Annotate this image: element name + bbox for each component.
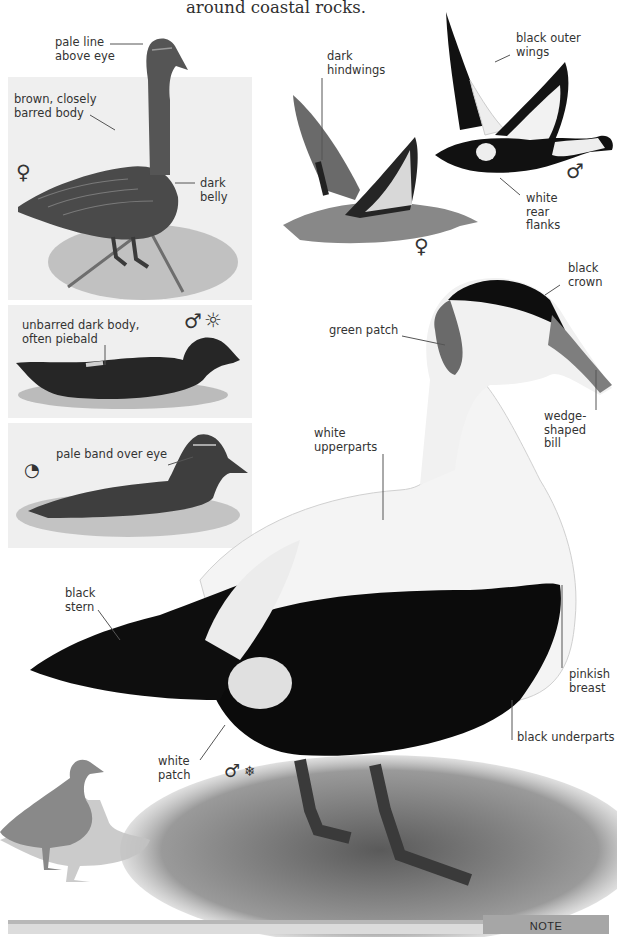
footer-bar [8,924,483,934]
note-tab: NOTE [483,915,609,934]
